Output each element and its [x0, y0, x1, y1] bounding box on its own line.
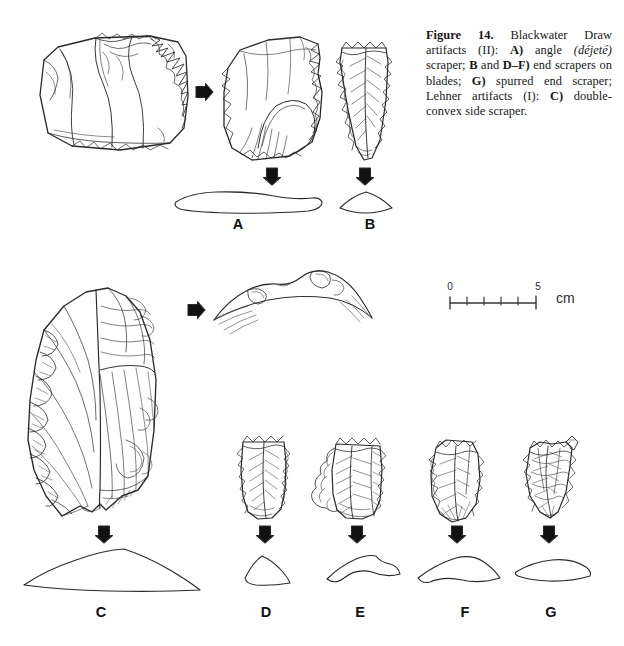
caption-key-a: A) [510, 43, 523, 57]
arrow-down-icon [357, 168, 374, 185]
specimen-c-edge-view [214, 271, 372, 334]
scale-min-label: 0 [442, 281, 458, 292]
specimen-label-e: E [347, 604, 373, 620]
specimen-a-dorsal-view [40, 33, 188, 150]
specimen-c-dorsal-view [28, 288, 158, 516]
specimen-label-d: D [253, 604, 279, 620]
caption-text-3: scraper; [426, 58, 469, 72]
arrow-right-icon [196, 84, 213, 101]
caption-key-b: B [469, 58, 477, 72]
specimen-d-dorsal-view [237, 436, 290, 519]
figure-number: Figure 14. [426, 28, 494, 42]
caption-key-c: C) [550, 89, 563, 103]
caption-text-4: and [478, 58, 503, 72]
arrow-right-icon [188, 302, 205, 319]
scale-max-label: 5 [530, 281, 546, 292]
specimen-a-section [175, 192, 322, 213]
specimen-b-dorsal-view [336, 42, 392, 160]
specimen-f-section [418, 557, 500, 583]
specimen-label-g: G [538, 604, 564, 620]
specimen-label-f: F [452, 604, 478, 620]
arrow-down-icon [257, 526, 274, 543]
specimen-a-ventral-view [222, 37, 322, 160]
specimen-g-dorsal-view [523, 436, 578, 518]
specimen-e-dorsal-view [312, 438, 386, 519]
specimen-label-b: B [357, 216, 383, 232]
caption-text-2: angle [523, 43, 574, 57]
specimen-c-section [24, 549, 200, 591]
specimen-label-c: C [88, 604, 114, 620]
specimen-e-section [327, 555, 400, 581]
arrow-down-icon [349, 526, 366, 543]
arrow-down-icon [96, 526, 113, 543]
specimen-g-section [515, 560, 590, 582]
arrow-down-icon [541, 526, 558, 543]
specimen-b-section [340, 192, 392, 213]
caption-term-dejete: (déjeté) [574, 43, 612, 57]
specimen-label-a: A [225, 216, 251, 232]
specimen-f-dorsal-view [429, 440, 484, 522]
scale-unit-label: cm [556, 290, 575, 306]
figure-plate: Figure 14. Blackwater Draw artifacts (II… [0, 0, 624, 646]
caption-key-g: G) [472, 74, 486, 88]
arrow-down-icon [264, 168, 281, 185]
caption-key-df: D–F) [503, 58, 530, 72]
arrow-down-icon [449, 526, 466, 543]
specimen-d-section [245, 556, 290, 585]
scale-bar: 0 5 cm [448, 281, 578, 315]
figure-caption: Figure 14. Blackwater Draw artifacts (II… [426, 28, 612, 119]
